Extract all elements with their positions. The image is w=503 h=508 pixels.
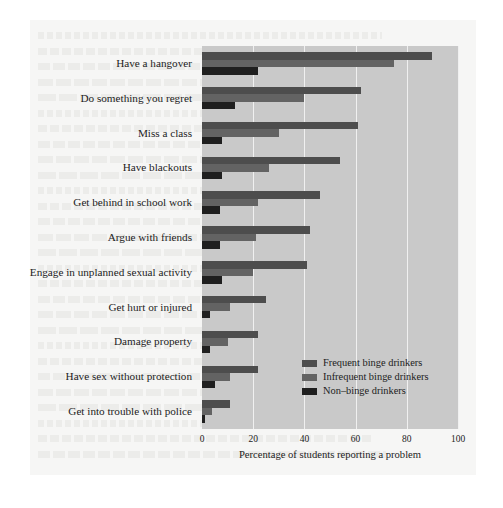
legend-item: Infrequent binge drinkers	[302, 371, 462, 385]
bar	[202, 408, 212, 416]
category-label: Argue with friends	[0, 232, 192, 243]
bar	[202, 261, 307, 269]
legend-swatch	[302, 360, 317, 367]
bar	[202, 129, 279, 137]
bar	[202, 381, 215, 389]
bar-group: Do something you regret	[0, 81, 503, 116]
bar-group: Get into trouble with police	[0, 394, 503, 429]
bar-chart-figure: Have a hangoverDo something you regretMi…	[0, 0, 503, 508]
bar-group: Get hurt or injured	[0, 290, 503, 325]
bar	[202, 400, 230, 408]
bar	[202, 206, 220, 214]
x-tick-label: 40	[300, 434, 310, 444]
bar-group: Miss a class	[0, 116, 503, 151]
bar	[202, 191, 320, 199]
category-label: Engage in unplanned sexual activity	[0, 267, 192, 278]
x-tick-label: 60	[351, 434, 361, 444]
x-tick-label: 20	[248, 434, 258, 444]
x-tick-label: 80	[402, 434, 412, 444]
bar	[202, 311, 210, 319]
bar	[202, 276, 222, 284]
bar-group: Have a hangover	[0, 46, 503, 81]
bar	[202, 157, 340, 165]
bar	[202, 102, 235, 110]
bar	[202, 234, 256, 242]
bar	[202, 241, 220, 249]
legend-swatch	[302, 388, 317, 395]
legend-label: Infrequent binge drinkers	[323, 371, 429, 382]
bar	[202, 137, 222, 145]
bar	[202, 87, 361, 95]
bar	[202, 164, 269, 172]
bar-group: Damage property	[0, 325, 503, 360]
bar	[202, 67, 258, 75]
bar	[202, 331, 258, 339]
bar	[202, 296, 266, 304]
bar	[202, 52, 432, 60]
x-axis-title: Percentage of students reporting a probl…	[202, 449, 458, 460]
bar	[202, 60, 394, 68]
category-label: Have sex without protection	[0, 371, 192, 382]
chart-legend: Frequent binge drinkersInfrequent binge …	[302, 357, 462, 399]
category-label: Have blackouts	[0, 162, 192, 173]
bar	[202, 373, 230, 381]
legend-label: Non–binge drinkers	[323, 385, 406, 396]
legend-swatch	[302, 374, 317, 381]
category-label: Get hurt or injured	[0, 302, 192, 313]
bar-group: Argue with friends	[0, 220, 503, 255]
bar	[202, 366, 258, 374]
bar	[202, 199, 258, 207]
category-label: Get behind in school work	[0, 197, 192, 208]
bar	[202, 122, 358, 130]
bar	[202, 338, 228, 346]
bar-group: Engage in unplanned sexual activity	[0, 255, 503, 290]
category-label: Get into trouble with police	[0, 406, 192, 417]
bar-group: Get behind in school work	[0, 185, 503, 220]
x-tick-label: 100	[451, 434, 465, 444]
category-label: Have a hangover	[0, 58, 192, 69]
bar	[202, 415, 205, 423]
bar	[202, 303, 230, 311]
x-axis: 020406080100 Percentage of students repo…	[0, 429, 503, 469]
x-tick-label: 0	[200, 434, 205, 444]
bar	[202, 226, 310, 234]
legend-item: Frequent binge drinkers	[302, 357, 462, 371]
legend-label: Frequent binge drinkers	[323, 357, 422, 368]
bar	[202, 94, 304, 102]
bar-group: Have blackouts	[0, 150, 503, 185]
bar	[202, 346, 210, 354]
category-label: Damage property	[0, 336, 192, 347]
bar	[202, 269, 253, 277]
legend-item: Non–binge drinkers	[302, 385, 462, 399]
category-label: Miss a class	[0, 128, 192, 139]
bar	[202, 172, 222, 180]
category-label: Do something you regret	[0, 93, 192, 104]
